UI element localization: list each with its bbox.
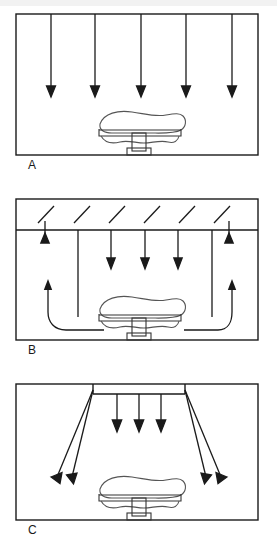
return-air-arrows-b <box>48 288 232 330</box>
operating-table-b <box>99 296 185 340</box>
operating-table-a <box>99 111 185 155</box>
plenum-hatch-marks-b <box>38 206 230 223</box>
panel-label-b: B <box>28 343 36 357</box>
panel-a-drawing <box>0 0 277 185</box>
diverging-arrows-left-c <box>51 390 93 484</box>
drape-outline-c <box>101 501 179 508</box>
panel-label-a: A <box>28 158 36 172</box>
room-outline-c <box>16 384 258 520</box>
ventilation-airflow-figure: A <box>0 0 277 554</box>
panel-b-plenum-supply-with-low-level-return: B <box>0 185 277 370</box>
supply-arrows-b <box>78 230 212 317</box>
drape-outline-a <box>101 136 179 143</box>
supply-arrows-c <box>112 394 165 432</box>
panel-a-unidirectional-downward-flow: A <box>0 0 277 185</box>
room-outline-b <box>16 199 258 340</box>
supply-arrows-a <box>47 14 237 97</box>
diverging-arrows-right-c <box>185 390 227 484</box>
panel-c-central-diffuser-diverging-flow: C <box>0 370 277 554</box>
panel-label-c: C <box>28 523 37 537</box>
return-air-arrowheads-b <box>44 279 236 290</box>
panel-b-drawing <box>0 185 277 370</box>
plenum-intake-arrows-b <box>41 221 233 243</box>
panel-c-drawing <box>0 370 277 554</box>
room-outline-a <box>16 14 258 155</box>
operating-table-c <box>99 476 185 520</box>
drape-outline-b <box>101 321 179 328</box>
